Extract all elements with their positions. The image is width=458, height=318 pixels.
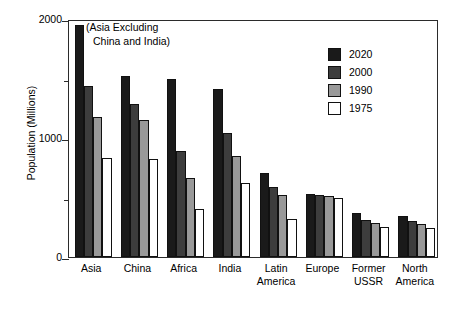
bar	[361, 220, 370, 257]
bar	[102, 158, 111, 257]
y-axis-tick-mark	[62, 21, 69, 22]
y-axis-minor-tick-mark	[64, 200, 69, 201]
bar	[75, 25, 84, 257]
bar	[149, 159, 158, 257]
y-axis-minor-tick-mark	[64, 81, 69, 82]
bar	[130, 104, 139, 258]
bar	[334, 198, 343, 257]
legend-swatch	[328, 66, 341, 79]
bar	[93, 117, 102, 257]
legend-label: 2020	[349, 48, 372, 60]
bar	[167, 79, 176, 258]
y-axis-tick-mark	[62, 259, 69, 260]
bar-group	[121, 21, 158, 257]
chart-legend: 2020200019901975	[328, 45, 372, 117]
legend-swatch	[328, 84, 341, 97]
bar-group	[398, 21, 435, 257]
bar	[278, 195, 287, 257]
legend-item: 1990	[328, 81, 372, 99]
legend-label: 2000	[349, 66, 372, 78]
bar	[269, 187, 278, 257]
x-axis-tick-label-line: America	[375, 275, 455, 288]
bar	[324, 196, 333, 257]
annotation-line-1: (Asia Excluding	[86, 21, 158, 33]
legend-swatch	[328, 48, 341, 61]
bar-group	[260, 21, 297, 257]
bar-group	[75, 21, 112, 257]
bar	[186, 178, 195, 257]
x-axis-tick-label-line: America	[236, 275, 316, 288]
bar	[408, 221, 417, 257]
bar	[287, 219, 296, 257]
legend-item: 1975	[328, 99, 372, 117]
bar	[352, 213, 361, 257]
y-axis-tick-mark	[62, 140, 69, 141]
bar	[426, 228, 435, 257]
y-axis-tick-label: 1000	[2, 132, 62, 144]
bar	[380, 227, 389, 257]
legend-label: 1975	[349, 102, 372, 114]
bar-group	[167, 21, 204, 257]
bar	[371, 223, 380, 258]
x-axis-tick-label-line: North	[375, 262, 455, 275]
bar	[398, 216, 407, 257]
bar	[315, 195, 324, 257]
bar	[241, 183, 250, 257]
annotation-line-2: China and India)	[86, 35, 170, 49]
legend-item: 2000	[328, 63, 372, 81]
chart-figure: Population (Millions) 010002000 (Asia Ex…	[0, 0, 458, 318]
chart-annotation: (Asia Excluding China and India)	[86, 21, 170, 48]
bar	[232, 156, 241, 257]
bar	[139, 120, 148, 257]
legend-swatch	[328, 102, 341, 115]
y-axis-tick-label: 2000	[2, 13, 62, 25]
bar	[306, 194, 315, 257]
bar	[417, 224, 426, 257]
plot-area	[68, 20, 438, 258]
legend-item: 2020	[328, 45, 372, 63]
bar-group	[213, 21, 250, 257]
x-axis-tick-label: NorthAmerica	[375, 262, 455, 287]
bar	[223, 133, 232, 257]
bar	[213, 89, 222, 257]
bar	[260, 173, 269, 257]
bar	[84, 86, 93, 257]
legend-label: 1990	[349, 84, 372, 96]
bar	[176, 151, 185, 257]
bar	[195, 209, 204, 257]
bar	[121, 76, 130, 257]
